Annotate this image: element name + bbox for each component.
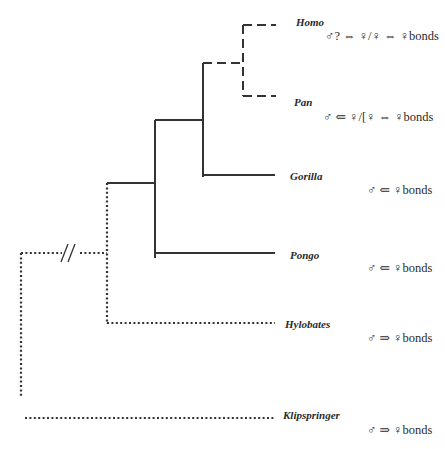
taxon-label-homo: Homo (296, 16, 324, 28)
taxon-label-pongo: Pongo (290, 249, 319, 261)
bond-label-klipspringer: ♂ ⇒ ♀bonds (367, 422, 432, 438)
taxon-label-pan: Pan (294, 96, 312, 108)
taxon-label-klipspringer: Klipspringer (283, 409, 340, 421)
bond-label-pongo: ♂ ⇐ ♀bonds (367, 260, 432, 276)
taxon-label-hylobates: Hylobates (285, 318, 330, 330)
taxon-label-gorilla: Gorilla (290, 170, 322, 182)
bond-label-homo: ♂? ⇔ ♀/♀ ⇔ ♀bonds (325, 29, 439, 44)
bond-label-gorilla: ♂ ⇐ ♀bonds (367, 182, 432, 198)
bond-label-hylobates: ♂ ⇒ ♀bonds (367, 330, 432, 346)
phylogeny-tree (0, 0, 445, 449)
bond-label-pan: ♂ ⇐ ♀/[♀ ⇔ ♀bonds (323, 109, 433, 125)
break-mark-icon (61, 244, 75, 262)
